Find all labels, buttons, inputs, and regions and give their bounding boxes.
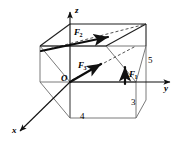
edge-bottom-diag-left <box>40 82 70 118</box>
force-label-F1-sub: 1 <box>135 74 138 80</box>
box-top-edges <box>40 24 146 46</box>
force-label-F3: F3 <box>78 61 87 70</box>
force-label-F3-sub: 3 <box>84 65 87 71</box>
z-axis-label: z <box>75 6 79 15</box>
dimension-label-5: 5 <box>148 56 153 65</box>
edge-top-front-right <box>106 24 146 46</box>
force-label-F1: F1 <box>129 70 138 79</box>
force-box-diagram: z y x O F2 F3 F1 4 3 5 <box>0 0 179 148</box>
diagram-canvas <box>0 0 179 148</box>
dimension-label-3: 3 <box>131 98 136 107</box>
x-axis-line <box>20 82 70 131</box>
x-axis-label: x <box>12 126 17 135</box>
dimension-label-4: 4 <box>80 112 85 121</box>
axis-lines <box>20 12 170 131</box>
edge-bottom-diag-right <box>136 100 146 118</box>
force-label-F2: F2 <box>74 28 83 37</box>
origin-label: O <box>61 74 68 83</box>
edge-top-back-left <box>40 24 70 46</box>
force-label-F2-sub: 2 <box>80 32 83 38</box>
y-axis-label: y <box>164 84 168 93</box>
force-vector-F2 <box>41 37 108 51</box>
